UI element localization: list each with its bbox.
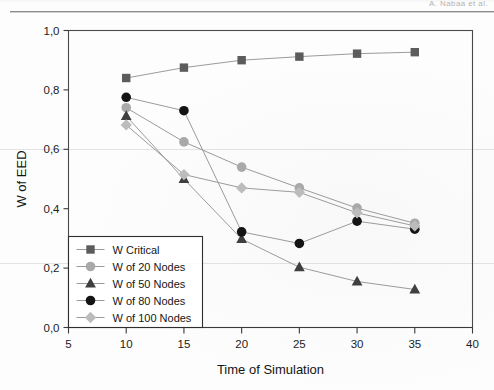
data-point: [237, 162, 247, 172]
data-point: [121, 110, 132, 120]
data-point: [411, 48, 419, 56]
data-point: [236, 182, 247, 193]
x-axis-tick-label: 15: [178, 338, 191, 350]
data-point: [237, 227, 247, 237]
data-point: [179, 137, 189, 147]
x-axis-tick-label: 40: [466, 338, 479, 350]
x-axis-tick-label: 10: [120, 338, 133, 350]
y-axis-tick-label: 0,8: [44, 84, 60, 96]
series-line: [126, 52, 415, 78]
x-axis-tick-label: 25: [293, 338, 306, 350]
legend-marker-square-icon: [86, 245, 94, 253]
series-line: [126, 125, 415, 226]
x-axis-tick-label: 5: [65, 338, 71, 350]
legend-label: W of 100 Nodes: [113, 312, 192, 324]
legend-label: W of 80 Nodes: [113, 295, 186, 307]
legend-label: W Critical: [113, 244, 160, 256]
y-axis-tick-label: 1,0: [44, 25, 60, 37]
chart-canvas: 0,00,20,40,60,81,0510152025303540Time of…: [0, 0, 494, 390]
data-point: [295, 239, 305, 249]
data-point: [353, 49, 361, 57]
y-axis-tick-label: 0,6: [44, 143, 60, 155]
data-point: [122, 74, 130, 82]
legend-label: W of 50 Nodes: [113, 278, 186, 290]
y-axis-title: W of EED: [14, 150, 29, 207]
series-line: [126, 97, 415, 243]
y-axis-tick-label: 0,2: [44, 262, 60, 274]
series-line: [126, 108, 415, 224]
legend-marker-circle-icon: [86, 296, 96, 306]
data-point: [237, 56, 245, 64]
data-point: [179, 106, 189, 116]
legend-marker-circle-icon: [86, 262, 96, 272]
data-point: [180, 63, 188, 71]
data-point: [294, 262, 305, 272]
x-axis-tick-label: 30: [351, 338, 364, 350]
y-axis-tick-label: 0,0: [44, 322, 60, 334]
data-point: [121, 93, 131, 103]
chart-figure: 0,00,20,40,60,81,0510152025303540Time of…: [0, 0, 494, 390]
x-axis-tick-label: 20: [235, 338, 248, 350]
y-axis-tick-label: 0,4: [44, 203, 61, 215]
x-axis-tick-label: 35: [408, 338, 421, 350]
data-point: [295, 52, 303, 60]
x-axis-title: Time of Simulation: [217, 362, 324, 377]
legend-label: W of 20 Nodes: [113, 261, 186, 273]
